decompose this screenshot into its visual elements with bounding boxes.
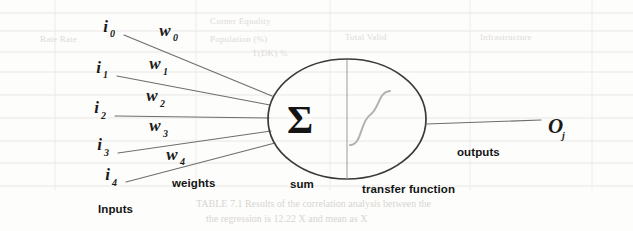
output-base: O bbox=[548, 114, 563, 138]
output-line bbox=[426, 120, 541, 124]
weight-3-base: w bbox=[149, 116, 161, 135]
background-rules bbox=[0, 0, 633, 190]
input-3-sub: 3 bbox=[103, 147, 109, 158]
weight-1-sub: 1 bbox=[163, 66, 168, 77]
transfer-group-label: transfer function bbox=[362, 183, 455, 195]
background-ghost-text: Corner Equality Total Valid Population (… bbox=[40, 16, 532, 224]
ghost-line-5: T(DK) % bbox=[252, 48, 288, 58]
weight-node-0: w 0 bbox=[159, 21, 178, 43]
neuron-diagram: Corner Equality Total Valid Population (… bbox=[0, 0, 633, 231]
weight-connection-lines bbox=[115, 35, 275, 182]
sigma-icon: Σ bbox=[287, 97, 313, 142]
weight-4-sub: 4 bbox=[179, 156, 185, 167]
ghost-line-3: Infrastructure bbox=[480, 32, 532, 42]
input-4-base: i bbox=[105, 165, 110, 184]
input-1-base: i bbox=[96, 58, 101, 77]
input-2-base: i bbox=[94, 98, 99, 117]
input-0-base: i bbox=[103, 17, 108, 36]
ghost-line-4: Rate Rate bbox=[40, 34, 77, 44]
weight-node-1: w 1 bbox=[149, 54, 168, 77]
weight-labels: w 0 w 1 w 2 w 3 w 4 bbox=[146, 21, 185, 167]
diagram-canvas: Corner Equality Total Valid Population (… bbox=[0, 0, 633, 231]
ghost-line-6: TABLE 7.1 Results of the correlation ana… bbox=[196, 198, 432, 209]
weight-2-base: w bbox=[146, 86, 158, 105]
ghost-line-7: the regression is 12.22 X and mean as X bbox=[206, 213, 368, 224]
weight-0-sub: 0 bbox=[173, 32, 178, 43]
weight-node-2: w 2 bbox=[146, 86, 165, 109]
weight-4-base: w bbox=[166, 145, 178, 164]
weight-node-4: w 4 bbox=[166, 145, 185, 167]
ghost-line-2: Population (%) bbox=[210, 34, 268, 44]
input-1-sub: 1 bbox=[103, 69, 108, 80]
weight-2-sub: 2 bbox=[159, 98, 165, 109]
inputs-group-label: Inputs bbox=[98, 203, 133, 215]
ghost-line-0: Corner Equality bbox=[210, 16, 271, 26]
input-node-0: i 0 bbox=[103, 17, 115, 39]
sum-group-label: sum bbox=[290, 178, 314, 190]
input-2-sub: 2 bbox=[100, 110, 106, 121]
input-node-3: i 3 bbox=[97, 135, 109, 158]
input-3-base: i bbox=[97, 135, 102, 154]
weights-group-label: weights bbox=[171, 177, 216, 189]
output-node: O j bbox=[548, 114, 565, 141]
weight-0-base: w bbox=[159, 21, 171, 40]
input-node-4: i 4 bbox=[105, 165, 117, 188]
weight-3-sub: 3 bbox=[162, 128, 168, 139]
input-4-sub: 4 bbox=[111, 177, 117, 188]
input-labels: i 0 i 1 i 2 i 3 i 4 bbox=[94, 17, 117, 188]
outputs-group-label: outputs bbox=[457, 146, 500, 158]
weight-node-3: w 3 bbox=[149, 116, 168, 139]
input-0-sub: 0 bbox=[110, 28, 115, 39]
weight-line-1 bbox=[117, 76, 270, 105]
ghost-line-1: Total Valid bbox=[345, 32, 387, 42]
input-node-1: i 1 bbox=[96, 58, 108, 80]
weight-1-base: w bbox=[149, 54, 161, 73]
